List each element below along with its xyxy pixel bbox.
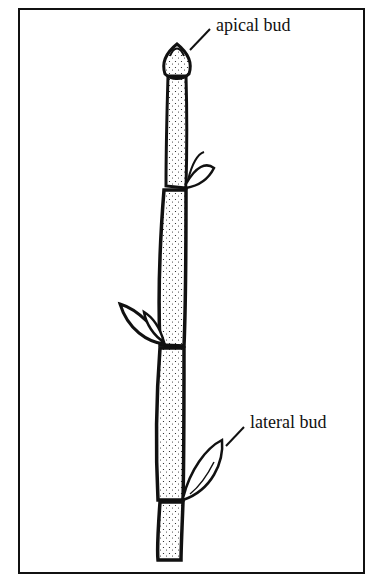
- apical-bud-label: apical bud: [216, 16, 290, 34]
- stem-lower-segment: [157, 348, 184, 500]
- stem-middle-segment: [159, 190, 186, 346]
- stem-illustration: [0, 0, 376, 575]
- lateral-leader-line: [226, 427, 244, 446]
- apical-bud-icon: [164, 44, 191, 79]
- stem-base: [158, 502, 183, 560]
- apical-leader-line: [190, 29, 210, 50]
- upper-lateral-bud-icon: [186, 152, 214, 188]
- lateral-bud-label: lateral bud: [250, 413, 326, 431]
- stem-upper-segment: [166, 76, 187, 188]
- lateral-bud-icon: [183, 440, 222, 500]
